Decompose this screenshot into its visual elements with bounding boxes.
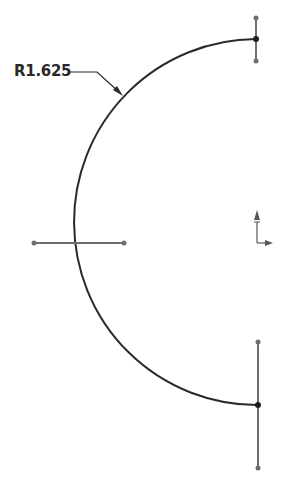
origin-icon	[254, 210, 273, 246]
bottom-vertical-line[interactable]	[255, 340, 261, 471]
endpoint-handle[interactable]	[256, 466, 261, 471]
endpoint-handle[interactable]	[256, 340, 261, 345]
dimension-leader[interactable]	[70, 72, 123, 96]
radius-dimension-label[interactable]: R1.625	[14, 63, 71, 80]
endpoint-handle[interactable]	[32, 241, 37, 246]
middle-horizontal-line[interactable]	[32, 241, 127, 246]
endpoint-handle[interactable]	[254, 59, 259, 64]
arc-endpoint[interactable]	[255, 402, 261, 408]
top-vertical-line[interactable]	[253, 16, 259, 64]
arc-endpoint[interactable]	[253, 36, 259, 42]
endpoint-handle[interactable]	[122, 241, 127, 246]
endpoint-handle[interactable]	[254, 16, 259, 21]
sketch-arc[interactable]	[74, 39, 258, 405]
